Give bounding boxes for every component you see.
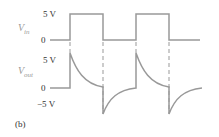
waveform-diagram xyxy=(0,0,219,137)
vout-trace xyxy=(50,53,202,114)
vin-trace xyxy=(50,14,200,40)
